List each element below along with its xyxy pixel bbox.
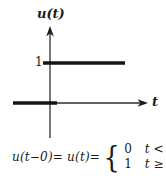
step-function-figure: u(t) 1 t u(t−0)= u(t)= { 0 t < 0 1 t ≥ 0 [0, 0, 166, 182]
piecewise-equation: u(t−0)= u(t)= { 0 t < 0 1 t ≥ 0 [12, 141, 166, 173]
case-1-value: 1 [124, 157, 132, 172]
case-0-value: 0 [124, 142, 132, 157]
y-axis-label: u(t) [37, 6, 65, 21]
case-1-condition: t ≥ 0 [145, 157, 166, 172]
x-axis-label: t [152, 94, 158, 109]
step-level-label: 1 [35, 55, 43, 69]
equation-lhs: u(t−0)= u(t)= [12, 150, 100, 164]
case-0-condition: t < 0 [145, 142, 166, 157]
equation-cases: 0 t < 0 1 t ≥ 0 [124, 142, 166, 172]
equation-brace: { [103, 141, 119, 173]
